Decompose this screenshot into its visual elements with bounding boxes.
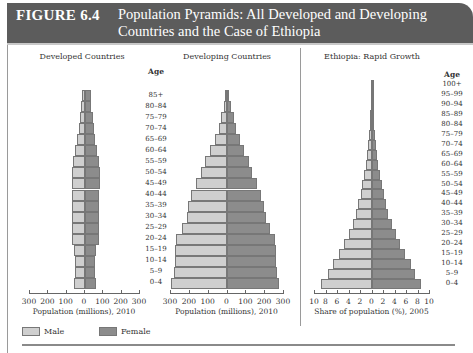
female-bar [372, 259, 411, 269]
male-bar [219, 123, 227, 134]
female-bar [227, 101, 231, 112]
age-label: 65–69 [145, 135, 166, 143]
female-bar [85, 234, 99, 245]
male-bar [72, 234, 85, 245]
age-label: 10–14 [145, 256, 166, 264]
female-bar [227, 90, 229, 101]
age-label: 0–4 [446, 279, 458, 287]
female-bar [372, 249, 405, 259]
age-label: 75–79 [441, 130, 462, 138]
female-bar [372, 140, 376, 150]
age-label: 70–74 [441, 140, 462, 148]
x-tick-label: 100 [95, 297, 109, 306]
age-label: 30–34 [441, 219, 462, 227]
female-bar [85, 178, 100, 189]
age-label: 40–44 [145, 190, 166, 198]
age-label: 25–29 [145, 223, 166, 231]
figure-number: FIGURE 6.4 [16, 7, 100, 24]
x-tick-label: 200 [182, 297, 196, 306]
female-bar [227, 145, 244, 156]
male-bar [72, 223, 85, 234]
male-bar [328, 269, 372, 279]
male-bar [72, 167, 85, 178]
x-tick-label: 200 [40, 297, 54, 306]
x-tick-label: 100 [238, 297, 252, 306]
male-bar [75, 145, 85, 156]
figure-header: FIGURE 6.4 Population Pyramids: All Deve… [7, 3, 473, 43]
x-tick-label: 4 [392, 297, 397, 306]
female-bar [227, 112, 234, 123]
x-tick-label: 6 [335, 297, 340, 306]
male-bar [72, 190, 85, 201]
male-bar [77, 134, 85, 145]
male-bar [364, 170, 372, 180]
chart-title: Developing Countries [183, 52, 271, 61]
female-bar [372, 160, 378, 170]
male-bar [175, 256, 227, 267]
female-bar [85, 112, 93, 123]
age-label: 55–59 [145, 157, 166, 165]
age-label: 20–24 [441, 239, 462, 247]
male-bar [187, 212, 227, 223]
age-label: 45–49 [441, 189, 462, 197]
female-bar [372, 110, 374, 120]
x-tick-label: 4 [346, 297, 351, 306]
male-bar [75, 256, 85, 267]
age-label: 100+ [442, 80, 461, 88]
female-bar [85, 145, 97, 156]
x-tick-label: 6 [404, 297, 409, 306]
male-swatch-icon [22, 327, 40, 336]
age-label: 15–19 [145, 245, 166, 253]
female-bar [372, 239, 400, 249]
x-tick-label: 10 [424, 297, 434, 306]
female-bar [85, 278, 96, 289]
male-bar [191, 190, 227, 201]
x-tick [84, 290, 85, 294]
female-bar [227, 178, 257, 189]
female-bar [227, 123, 236, 134]
x-tick-label: 10 [309, 297, 319, 306]
male-bar [201, 167, 227, 178]
female-bar [85, 90, 91, 101]
legend-male-label: Male [44, 327, 64, 336]
age-label: 90–94 [441, 100, 462, 108]
female-bar [227, 223, 270, 234]
age-label: 80–84 [441, 120, 462, 128]
age-heading: Age [444, 70, 460, 79]
male-bar [75, 267, 85, 278]
age-label: 35–39 [145, 201, 166, 209]
x-axis-title: Population (millions), 2010 [175, 307, 278, 316]
male-bar [74, 245, 85, 256]
female-bar [372, 199, 386, 209]
male-bar [358, 199, 372, 209]
chart-title: Ethiopia: Rapid Growth [324, 52, 420, 61]
male-bar [205, 156, 227, 167]
age-heading: Age [148, 67, 164, 76]
x-tick [406, 290, 407, 294]
male-bar [72, 178, 85, 189]
female-bar [227, 267, 277, 278]
x-tick-label: 100 [200, 297, 214, 306]
female-bar [372, 209, 388, 219]
x-tick-label: 300 [132, 297, 146, 306]
age-label: 50–54 [145, 168, 166, 176]
age-label: 5–9 [150, 267, 162, 275]
header-rule [7, 43, 473, 45]
female-bar [85, 212, 99, 223]
male-bar [72, 212, 85, 223]
male-bar [188, 201, 227, 212]
male-bar [174, 267, 227, 278]
male-bar [353, 219, 372, 229]
female-bar [85, 167, 100, 178]
female-bar [227, 134, 240, 145]
female-bar [372, 229, 396, 239]
male-bar [321, 279, 372, 289]
x-tick-label: 200 [113, 297, 127, 306]
male-bar [73, 156, 85, 167]
female-bar [85, 123, 94, 134]
x-tick [102, 290, 103, 294]
female-bar [372, 150, 377, 160]
x-tick [170, 290, 171, 294]
x-tick [418, 290, 419, 294]
female-bar [372, 180, 382, 190]
